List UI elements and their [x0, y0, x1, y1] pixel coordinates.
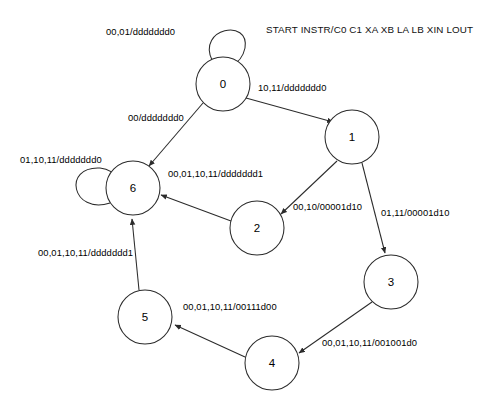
transition-label-5-to-6: 00,01,10,11/ddddddd1	[38, 247, 133, 258]
transition-label-4-to-5: 00,01,10,11/00111d00	[183, 301, 277, 312]
state-label-4: 4	[269, 357, 276, 369]
transition-label-1-to-3: 01,11/00001d10	[381, 207, 449, 218]
state-label-3: 3	[388, 276, 394, 288]
state-machine-diagram: 0 1 2 3 4 5 6 START INSTR/C0 C1 XA XB LA…	[0, 0, 477, 405]
transition-label-0-to-1: 10,11/ddddddd0	[258, 82, 326, 93]
state-label-1: 1	[349, 131, 355, 143]
transition-label-1-to-2: 00,10/00001d10	[293, 201, 362, 212]
transition-label-0-to-6: 00/ddddddd0	[128, 112, 184, 123]
transition-label-6-to-6: 01,10,11/ddddddd0	[20, 154, 102, 165]
transition-2-to-6	[161, 195, 231, 221]
transition-0-to-1	[246, 98, 333, 122]
transition-label-3-to-4: 00,01,10,11/001001d0	[322, 337, 417, 348]
transition-4-to-5	[175, 325, 245, 357]
diagram-title: START INSTR/C0 C1 XA XB LA LB XIN LOUT	[266, 24, 473, 35]
state-label-0: 0	[220, 78, 226, 90]
transition-label-2-to-6: 00,01,10,11/ddddddd1	[168, 168, 263, 179]
state-label-5: 5	[142, 311, 148, 323]
state-label-6: 6	[130, 182, 136, 194]
transition-label-0-to-0: 00,01/ddddddd0	[106, 26, 175, 37]
state-label-2: 2	[254, 222, 260, 234]
